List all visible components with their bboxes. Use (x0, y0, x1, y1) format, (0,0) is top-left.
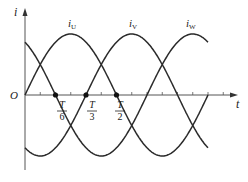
y-axis-label: i (14, 5, 17, 19)
x-axis-label: t (236, 97, 240, 111)
svg-text:2: 2 (118, 111, 123, 122)
svg-text:T: T (59, 99, 66, 110)
frac-t3: T 3 (87, 99, 97, 122)
label-i-u: iU (68, 17, 76, 31)
point-t6 (53, 92, 58, 97)
point-t2 (114, 92, 119, 97)
svg-text:3: 3 (90, 111, 95, 122)
three-phase-diagram: i t O iU iV iW T 6 T 3 T 2 (0, 0, 248, 182)
svg-text:T: T (89, 99, 96, 110)
frac-t6: T 6 (57, 99, 67, 122)
origin-label: O (10, 89, 18, 101)
point-t3 (83, 92, 88, 97)
y-axis-arrow-icon (23, 8, 28, 16)
svg-text:6: 6 (60, 111, 65, 122)
label-i-v: iV (129, 17, 137, 31)
label-i-w: iW (186, 17, 196, 31)
